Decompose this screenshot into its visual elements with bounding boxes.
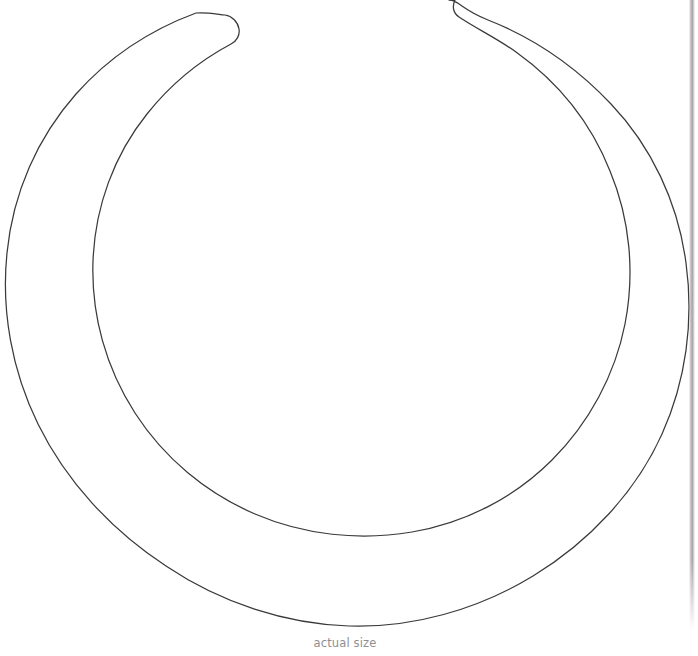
page-edge-shadow xyxy=(689,0,695,640)
figure-caption: actual size xyxy=(0,636,690,650)
ring-drawing-svg xyxy=(0,0,698,656)
ring-figure xyxy=(0,0,698,656)
document-page: actual size xyxy=(0,0,698,656)
ring-outline-path xyxy=(5,0,689,626)
